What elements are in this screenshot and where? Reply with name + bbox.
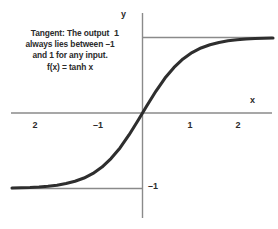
y-tick-label-1: 1 xyxy=(114,28,119,38)
x-tick-label-neg2: 2 xyxy=(25,120,45,130)
x-tick-label-1: 1 xyxy=(180,120,200,130)
x-tick-label-2: 2 xyxy=(228,120,248,130)
annotation-line-2: always lies between –1 xyxy=(6,39,134,50)
annotation-line-3: and 1 for any input. xyxy=(6,50,134,61)
tanh-function-chart: Tangent: The output always lies between … xyxy=(0,0,278,229)
y-tick-label-neg1: –1 xyxy=(148,181,158,191)
x-axis-label: x xyxy=(250,95,255,105)
annotation-line-4: f(x) = tanh x xyxy=(6,62,134,73)
x-tick-label-neg1: –1 xyxy=(88,120,108,130)
y-axis-label: y xyxy=(121,9,126,19)
